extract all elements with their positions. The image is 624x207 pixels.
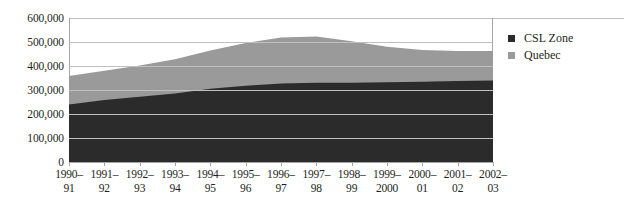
- legend-item-csl-zone: CSL Zone: [508, 30, 620, 46]
- x-axis: 1990–911991–921992–931993–941994–951995–…: [69, 168, 493, 204]
- x-tickmark: [422, 162, 423, 166]
- y-tick-label: 400,000: [0, 60, 64, 72]
- y-tick-label: 500,000: [0, 36, 64, 48]
- gridline-500000: [69, 42, 493, 43]
- x-category-line: 2002–: [468, 168, 517, 182]
- x-tickmark: [352, 162, 353, 166]
- gridline-300000: [69, 90, 493, 91]
- y-tick-label: 0: [0, 156, 64, 168]
- y-tick-label: 100,000: [0, 132, 64, 144]
- legend-label-quebec: Quebec: [524, 48, 561, 62]
- x-category-label: 2002–03: [468, 168, 517, 195]
- x-category-line: 03: [468, 182, 517, 196]
- x-tickmark: [493, 162, 494, 166]
- x-tickmark: [175, 162, 176, 166]
- x-tickmark: [246, 162, 247, 166]
- x-tickmark: [458, 162, 459, 166]
- x-tickmark: [210, 162, 211, 166]
- legend-swatch-csl-zone: [508, 35, 515, 42]
- y-tick-label: 300,000: [0, 84, 64, 96]
- x-tickmark: [316, 162, 317, 166]
- legend-swatch-quebec: [508, 52, 515, 59]
- gridline-200000: [69, 114, 493, 115]
- x-tickmark: [104, 162, 105, 166]
- legend: CSL Zone Quebec: [508, 30, 620, 64]
- x-tickmark: [140, 162, 141, 166]
- stacked-area-chart: 600,000500,000400,000300,000200,000100,0…: [0, 0, 624, 207]
- legend-label-csl-zone: CSL Zone: [524, 31, 573, 45]
- gridline-100000: [69, 138, 493, 139]
- y-tick-label: 600,000: [0, 12, 64, 24]
- gridline-400000: [69, 66, 493, 67]
- x-tickmark: [281, 162, 282, 166]
- x-tickmark: [387, 162, 388, 166]
- y-tick-label: 200,000: [0, 108, 64, 120]
- y-axis: 600,000500,000400,000300,000200,000100,0…: [0, 12, 64, 164]
- x-tickmark: [69, 162, 70, 166]
- legend-item-quebec: Quebec: [508, 47, 620, 63]
